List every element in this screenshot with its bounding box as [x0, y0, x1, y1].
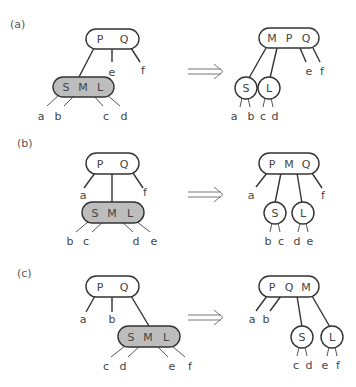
key: L: [266, 82, 273, 95]
key: L: [300, 207, 307, 220]
before-tree: P Q a b S M L c d e f: [80, 276, 193, 373]
key: M: [143, 331, 153, 344]
leaf-label: c: [103, 360, 109, 373]
leaf-label: a: [38, 110, 45, 123]
leaf-label: f: [188, 360, 193, 373]
arrow-icon: [188, 64, 223, 79]
leaf-label: f: [320, 65, 325, 78]
key: S: [63, 81, 70, 94]
before-tree: P Q e f S M L a b c d: [38, 29, 146, 123]
leaf-label: c: [260, 110, 266, 123]
leaf-label: e: [169, 360, 176, 373]
key: L: [127, 207, 134, 220]
key: Q: [285, 281, 294, 294]
leaf-label: a: [248, 189, 255, 202]
after-tree: M P Q e f S L a b c d: [231, 28, 325, 123]
after-tree: P M Q a f S L b c d e: [248, 153, 326, 248]
panel-c: (c) P Q a b S M L c d e f: [17, 267, 343, 373]
key: M: [78, 81, 88, 94]
leaf-label: e: [322, 359, 329, 372]
leaf-label: e: [109, 66, 116, 79]
key: Q: [302, 158, 311, 171]
key: L: [329, 331, 336, 344]
leaf-label: f: [321, 189, 326, 202]
leaf-label: d: [121, 110, 128, 123]
leaf-label: f: [336, 359, 341, 372]
key: L: [163, 331, 170, 344]
leaf-label: d: [133, 235, 140, 248]
leaf-label: d: [272, 110, 279, 123]
leaf-label: d: [306, 359, 313, 372]
key: S: [272, 207, 279, 220]
leaf-label: c: [103, 110, 109, 123]
key: P: [97, 158, 104, 171]
leaf-label: b: [67, 235, 74, 248]
leaf-label: a: [249, 313, 256, 326]
key: P: [97, 281, 104, 294]
leaf-label: d: [120, 360, 127, 373]
leaf-label: e: [307, 235, 314, 248]
leaf-label: c: [83, 235, 89, 248]
key: Q: [120, 281, 129, 294]
key: M: [301, 281, 311, 294]
parent-node: [86, 276, 139, 297]
key: S: [243, 82, 250, 95]
panel-label: (b): [17, 137, 33, 150]
parent-node: [86, 153, 139, 174]
key: P: [269, 281, 276, 294]
key: M: [107, 207, 117, 220]
key: M: [267, 32, 277, 45]
panel-label: (c): [17, 267, 32, 280]
key: M: [284, 158, 294, 171]
before-tree: P Q a f S M L b c d e: [67, 153, 158, 248]
key: Q: [302, 32, 311, 45]
key: S: [128, 331, 135, 344]
panel-b: (b) P Q a f S M L b c d e: [17, 137, 326, 248]
leaf-label: b: [265, 235, 272, 248]
key: P: [269, 158, 276, 171]
leaf-label: d: [294, 235, 301, 248]
parent-node: [86, 29, 139, 49]
panel-label: (a): [10, 18, 25, 31]
key: Q: [120, 158, 129, 171]
leaf-label: b: [55, 110, 62, 123]
key: L: [97, 81, 104, 94]
key: Q: [120, 33, 129, 46]
leaf-label: c: [293, 359, 299, 372]
key: S: [92, 207, 99, 220]
after-tree: P Q M a b S L c d e f: [249, 276, 343, 372]
key: P: [97, 33, 104, 46]
leaf-label: f: [143, 186, 148, 199]
key: P: [286, 32, 293, 45]
panel-a: (a) P Q e f S M L a b c d: [10, 18, 325, 123]
leaf-label: e: [306, 65, 313, 78]
leaf-label: c: [278, 235, 284, 248]
2-3-tree-split-diagram: (a) P Q e f S M L a b c d: [0, 0, 356, 387]
leaf-label: f: [141, 64, 146, 77]
leaf-label: a: [80, 313, 87, 326]
leaf-label: b: [109, 313, 116, 326]
leaf-label: b: [248, 110, 255, 123]
leaf-label: a: [80, 189, 87, 202]
leaf-label: a: [231, 110, 238, 123]
leaf-label: b: [263, 313, 270, 326]
leaf-label: e: [151, 235, 158, 248]
arrow-icon: [188, 310, 223, 325]
arrow-icon: [188, 187, 223, 202]
key: S: [299, 331, 306, 344]
